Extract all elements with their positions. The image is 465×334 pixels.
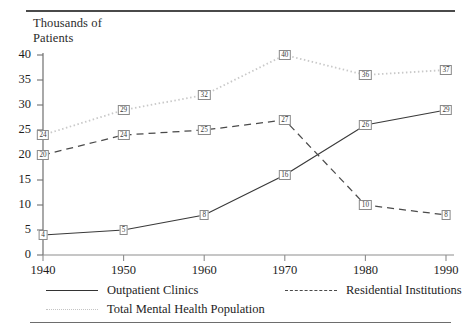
x-axis-tick-label: 1940: [20, 263, 66, 278]
legend-line-dashed-icon: [285, 290, 337, 291]
y-axis-tick-label: 35: [5, 72, 31, 87]
y-axis-tick-label: 5: [5, 222, 31, 237]
data-point-label: 36: [359, 70, 371, 80]
data-point-label: 25: [198, 125, 210, 135]
data-point-label: 8: [200, 210, 209, 220]
legend-item-residential-institutions: Residential Institutions: [285, 283, 462, 298]
data-point-label: 10: [359, 200, 371, 210]
data-point-label: 27: [279, 115, 291, 125]
data-point-label: 4: [39, 230, 48, 240]
x-axis-tick-label: 1990: [423, 263, 465, 278]
data-point-label: 20: [37, 150, 49, 160]
y-axis-tick-label: 15: [5, 172, 31, 187]
data-point-label: 16: [279, 170, 291, 180]
legend-line-dotted-icon: [46, 309, 98, 310]
legend-item-outpatient-clinics: Outpatient Clinics: [46, 283, 198, 298]
y-axis-tick-label: 0: [5, 247, 31, 262]
legend-label: Total Mental Health Population: [107, 302, 265, 317]
data-point-label: 26: [359, 120, 371, 130]
legend-item-total-mental-health-population: Total Mental Health Population: [46, 302, 265, 317]
y-axis-tick-label: 20: [5, 147, 31, 162]
y-axis-tick-label: 25: [5, 122, 31, 137]
data-point-label: 5: [119, 225, 128, 235]
data-point-label: 40: [279, 50, 291, 60]
data-point-label: 24: [37, 130, 49, 140]
data-point-label: 32: [198, 90, 210, 100]
y-axis-tick-label: 30: [5, 97, 31, 112]
legend-label: Outpatient Clinics: [107, 283, 198, 298]
data-point-label: 8: [442, 210, 451, 220]
y-axis-tick-label: 10: [5, 197, 31, 212]
x-axis-tick-label: 1970: [262, 263, 308, 278]
x-axis-tick-label: 1960: [181, 263, 227, 278]
data-point-label: 24: [117, 130, 129, 140]
legend-line-solid-icon: [46, 290, 98, 291]
y-axis-tick-label: 40: [5, 47, 31, 62]
data-point-label: 37: [440, 65, 452, 75]
x-axis-tick-label: 1980: [342, 263, 388, 278]
x-axis-tick-label: 1950: [101, 263, 147, 278]
data-point-label: 29: [440, 105, 452, 115]
legend-label: Residential Institutions: [346, 283, 462, 298]
data-point-label: 29: [117, 105, 129, 115]
